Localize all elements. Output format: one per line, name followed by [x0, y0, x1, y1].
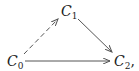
arrow-c0-to-c1-dashed: [24, 19, 58, 54]
node-c2-letter: C: [114, 53, 125, 69]
node-c0-letter: C: [7, 53, 18, 69]
node-c0-subscript: 0: [18, 61, 24, 71]
node-c1-letter: C: [61, 3, 72, 19]
node-c1-subscript: 1: [72, 11, 78, 21]
node-c2: C2,: [114, 54, 135, 71]
node-c0: C0: [7, 54, 23, 71]
node-c2-comma: ,: [130, 53, 134, 69]
arrow-c1-to-c2: [78, 19, 112, 52]
commutative-diagram: C1 C0 C2,: [0, 0, 139, 71]
node-c1: C1: [61, 4, 77, 21]
